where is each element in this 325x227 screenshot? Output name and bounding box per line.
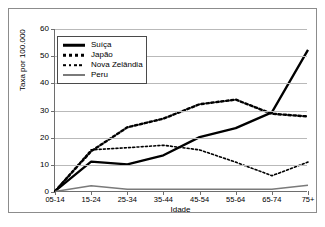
x-tick-label: 65-74 xyxy=(262,196,281,204)
y-tick-mark xyxy=(51,29,55,30)
x-tick-label: 35-44 xyxy=(154,196,173,204)
legend-item-nova-zelandia: Nova Zelândia xyxy=(62,60,142,70)
legend-line-swatch-suica xyxy=(62,41,86,50)
y-tick-mark xyxy=(51,138,55,139)
gridline-y xyxy=(55,29,307,30)
x-axis-title: Idade xyxy=(54,205,307,214)
x-tick-label: 75+ xyxy=(302,196,315,204)
x-tick-label: 55-64 xyxy=(226,196,245,204)
y-tick-label: 60 xyxy=(40,25,49,33)
y-tick-mark xyxy=(51,56,55,57)
legend-label-peru: Peru xyxy=(91,71,108,79)
y-tick-mark xyxy=(51,165,55,166)
gridline-y xyxy=(55,138,307,139)
y-axis-title: Taxa por 100.000 xyxy=(18,29,27,91)
y-tick-mark xyxy=(51,111,55,112)
y-tick-label: 50 xyxy=(40,52,49,60)
legend-line-swatch-peru xyxy=(62,71,86,80)
y-tick-label: 10 xyxy=(40,161,49,169)
legend-label-nova-zelandia: Nova Zelândia xyxy=(91,61,143,69)
series-line-peru xyxy=(55,185,308,191)
legend-line-swatch-nova-zelandia xyxy=(62,61,86,70)
legend-item-suica: Suíça xyxy=(62,40,142,50)
legend-label-suica: Suíça xyxy=(91,41,111,49)
legend-item-japao: Japão xyxy=(62,50,142,60)
x-tick-label: 15-24 xyxy=(82,196,101,204)
gridline-y xyxy=(55,111,307,112)
y-tick-label: 30 xyxy=(40,107,49,115)
x-tick-label: 05-14 xyxy=(45,196,64,204)
legend-line-swatch-japao xyxy=(62,51,86,60)
x-tick-label: 45-54 xyxy=(190,196,209,204)
y-tick-label: 40 xyxy=(40,79,49,87)
figure-border: Taxa por 100.000 010203040506005-1415-24… xyxy=(8,8,317,213)
chart-legend: Suíça Japão Nova Zelândia Peru xyxy=(57,36,147,84)
x-tick-label: 25-34 xyxy=(118,196,137,204)
legend-item-peru: Peru xyxy=(62,70,142,80)
chart-figure: Taxa por 100.000 010203040506005-1415-24… xyxy=(0,0,325,227)
gridline-y xyxy=(55,165,307,166)
y-tick-mark xyxy=(51,83,55,84)
y-tick-label: 20 xyxy=(40,134,49,142)
series-line-nova-zel-ndia xyxy=(55,145,308,191)
legend-label-japao: Japão xyxy=(91,51,113,59)
